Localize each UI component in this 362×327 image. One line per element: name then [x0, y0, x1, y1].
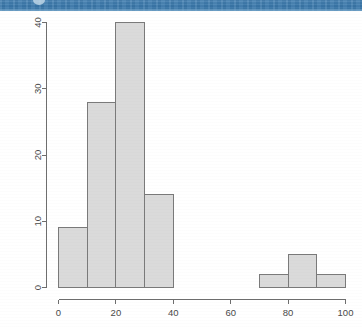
histogram-bar: [288, 254, 317, 287]
y-axis-tick-label: 10: [32, 216, 43, 227]
histogram-bar: [145, 195, 174, 288]
histogram-bar: [59, 228, 88, 288]
x-axis-tick-label: 0: [56, 307, 61, 318]
histogram-bar: [259, 274, 288, 287]
y-axis-tick-label: 20: [32, 150, 43, 161]
x-axis: 020406080100: [56, 300, 354, 318]
y-axis-tick-label: 0: [32, 285, 43, 290]
page-header-strip: [0, 0, 362, 11]
x-axis-tick-label: 80: [283, 307, 294, 318]
y-axis-tick-label: 40: [32, 17, 43, 28]
histogram-figure: 020406080100 010203040: [0, 11, 362, 327]
x-axis-tick-label: 60: [225, 307, 236, 318]
bars-group: [59, 23, 346, 288]
histogram-bar: [87, 102, 116, 288]
histogram-svg: 020406080100 010203040: [0, 11, 362, 327]
histogram-bar: [116, 23, 145, 288]
x-axis-tick-label: 20: [111, 307, 122, 318]
y-axis-tick-label: 30: [32, 83, 43, 94]
x-axis-tick-label: 100: [338, 307, 354, 318]
y-axis: 010203040: [32, 17, 47, 290]
histogram-bar: [317, 274, 346, 287]
x-axis-tick-label: 40: [168, 307, 179, 318]
